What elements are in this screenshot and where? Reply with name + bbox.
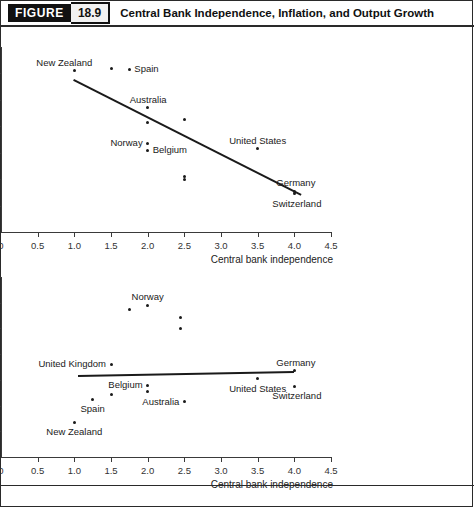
x-tick	[294, 232, 295, 237]
data-point	[179, 316, 182, 319]
data-point	[146, 121, 149, 124]
y-tick	[0, 431, 2, 432]
x-tick	[221, 232, 222, 237]
x-tick-label: 4.5	[311, 465, 351, 476]
y-tick	[0, 328, 2, 329]
x-tick-label: 2.0	[128, 465, 168, 476]
data-point	[73, 421, 76, 424]
y-tick	[0, 73, 2, 74]
x-tick-label: 1.5	[91, 465, 131, 476]
data-point	[183, 118, 186, 121]
data-point	[183, 400, 186, 403]
x-tick-label: 1.5	[91, 240, 131, 251]
figure-tag-label: FIGURE	[8, 4, 71, 22]
x-tick-label: 0.5	[18, 240, 58, 251]
x-tick-label: 3.0	[201, 240, 241, 251]
x-tick	[221, 457, 222, 462]
x-tick-label: 1.0	[54, 240, 94, 251]
x-tick-label: 2.0	[128, 240, 168, 251]
x-tick	[331, 232, 332, 237]
x-tick	[331, 457, 332, 462]
x-tick-label: 4.0	[274, 240, 314, 251]
x-tick-label: 1.0	[54, 465, 94, 476]
y-tick	[0, 126, 2, 127]
data-point	[128, 308, 131, 311]
x-tick	[111, 457, 112, 462]
data-point-label: Switzerland	[272, 198, 392, 209]
x-tick	[148, 457, 149, 462]
data-point	[73, 69, 76, 72]
x-tick-label: 2.5	[164, 240, 204, 251]
data-point-label: United Kingdom	[0, 358, 106, 369]
data-point-label: Spain	[134, 63, 254, 74]
x-axis-line	[1, 457, 332, 458]
figure-number-label: 18.9	[71, 2, 110, 24]
x-tick	[74, 232, 75, 237]
data-point-label: Australia	[130, 94, 250, 105]
data-point	[146, 390, 149, 393]
x-tick-label: 4.5	[311, 240, 351, 251]
data-point	[183, 178, 186, 181]
data-point-label: Switzerland	[272, 390, 392, 401]
x-tick	[148, 232, 149, 237]
data-point-label: Germany	[276, 177, 396, 188]
x-tick	[294, 457, 295, 462]
data-point	[146, 149, 149, 152]
x-tick	[111, 232, 112, 237]
data-point-label: Norway	[23, 137, 143, 148]
x-tick-label: 3.5	[238, 240, 278, 251]
data-point	[146, 106, 149, 109]
x-tick	[258, 457, 259, 462]
y-tick	[0, 179, 2, 180]
x-tick-label: 2.5	[164, 465, 204, 476]
y-tick	[0, 47, 2, 48]
data-point	[293, 369, 296, 372]
data-point	[146, 384, 149, 387]
y-tick	[0, 100, 2, 101]
x-tick-label: 4.0	[274, 465, 314, 476]
data-point	[293, 385, 296, 388]
x-axis-line	[1, 232, 332, 233]
y-tick	[0, 153, 2, 154]
x-tick	[184, 232, 185, 237]
data-point	[179, 327, 182, 330]
x-tick	[258, 232, 259, 237]
data-point-label: Belgium	[23, 379, 143, 390]
x-tick-label: 3.0	[201, 465, 241, 476]
data-point	[110, 393, 113, 396]
data-point-label: Germany	[276, 357, 396, 368]
data-point	[128, 68, 131, 71]
x-tick	[38, 232, 39, 237]
y-tick	[0, 354, 2, 355]
data-point	[110, 67, 113, 70]
figure-title: Central Bank Independence, Inflation, an…	[120, 7, 434, 19]
y-tick	[0, 206, 2, 207]
y-tick	[0, 406, 2, 407]
data-point-label: Norway	[88, 291, 208, 302]
x-tick-label: 0.5	[18, 465, 58, 476]
x-tick	[74, 457, 75, 462]
data-point	[146, 304, 149, 307]
x-tick	[38, 457, 39, 462]
data-point	[293, 192, 296, 195]
data-point-label: New Zealand	[0, 57, 92, 68]
data-point-label: United States	[198, 135, 318, 146]
x-tick	[184, 457, 185, 462]
y-tick	[0, 303, 2, 304]
figure-header: FIGURE18.9 Central Bank Independence, In…	[1, 1, 474, 27]
figure-footer-divider	[1, 485, 474, 486]
chart-panel-inflation: 02468101214%00.51.01.52.02.53.03.54.04.5…	[1, 29, 474, 257]
data-point	[256, 377, 259, 380]
trend-line	[78, 371, 294, 377]
data-point-label: New Zealand	[14, 426, 134, 437]
data-point	[146, 142, 149, 145]
x-tick-label: 3.5	[238, 465, 278, 476]
y-tick	[0, 277, 2, 278]
data-point	[110, 363, 113, 366]
chart-panel-growth: 00.51.01.52.02.53.03.5%00.51.01.52.02.53…	[1, 259, 474, 481]
y-tick	[0, 380, 2, 381]
data-point-label: Spain	[33, 403, 153, 414]
